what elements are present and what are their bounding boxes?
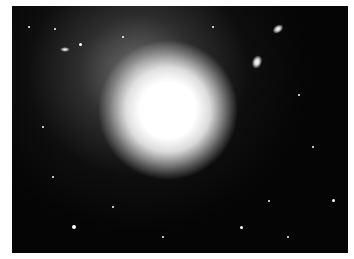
galaxy-photo	[12, 6, 348, 253]
star	[52, 176, 54, 178]
star	[28, 26, 30, 28]
star	[312, 146, 314, 148]
star	[79, 43, 82, 46]
star	[332, 199, 335, 202]
star	[212, 26, 214, 28]
star	[112, 206, 114, 208]
star	[268, 200, 270, 202]
star	[298, 94, 300, 96]
star	[42, 126, 44, 128]
star	[240, 226, 243, 229]
companion-galaxy	[60, 47, 70, 52]
star	[162, 236, 164, 238]
star	[54, 28, 56, 30]
star	[122, 36, 124, 38]
star	[287, 236, 289, 238]
galaxy-core	[98, 40, 238, 180]
star	[72, 225, 76, 229]
